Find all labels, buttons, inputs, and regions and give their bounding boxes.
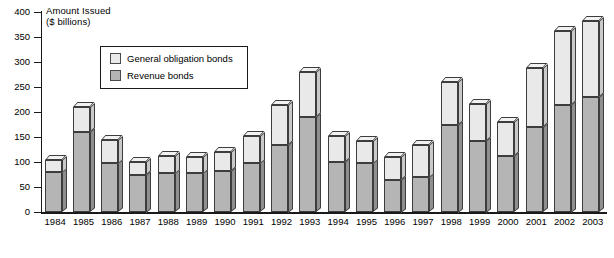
y-axis-tick-label: 350 <box>0 31 30 42</box>
bar-side-revenue <box>118 159 123 212</box>
bar-1984 <box>45 160 62 213</box>
bar-1992 <box>271 105 288 213</box>
bar-side-revenue <box>260 159 265 212</box>
bar-side-revenue <box>288 141 293 212</box>
bar-segment-revenue-bonds <box>186 173 203 212</box>
legend-label: Revenue bonds <box>127 70 194 81</box>
y-axis-tick <box>34 62 41 63</box>
x-axis-line <box>41 212 607 214</box>
bar-side-revenue <box>231 167 236 212</box>
bar-side-general-obligation <box>373 137 378 163</box>
bar-segment-revenue-bonds <box>45 172 62 212</box>
bar-1997 <box>412 145 429 213</box>
y-axis-tick-label: 100 <box>0 156 30 167</box>
bar-segment-revenue-bonds <box>158 173 175 212</box>
bar-segment-revenue-bonds <box>214 171 231 212</box>
bar-side-general-obligation <box>90 103 95 132</box>
bar-segment-general-obligation-bonds <box>271 105 288 145</box>
bar-segment-general-obligation-bonds <box>299 72 316 117</box>
bar-side-general-obligation <box>316 68 321 117</box>
bar-1996 <box>384 157 401 212</box>
bar-side-general-obligation <box>401 153 406 179</box>
bar-side-revenue <box>90 128 95 212</box>
bar-1987 <box>129 162 146 212</box>
bar-side-general-obligation <box>345 132 350 162</box>
bar-segment-revenue-bonds <box>243 163 260 212</box>
bar-side-general-obligation <box>543 64 548 127</box>
y-axis-tick <box>34 87 41 88</box>
y-axis-tick <box>34 137 41 138</box>
bar-segment-general-obligation-bonds <box>101 140 118 164</box>
bar-side-revenue <box>486 137 491 212</box>
bar-1993 <box>299 72 316 212</box>
bar-2003 <box>582 21 599 212</box>
bar-segment-general-obligation-bonds <box>554 31 571 105</box>
bar-side-revenue <box>373 159 378 212</box>
bar-segment-general-obligation-bonds <box>582 21 599 97</box>
bar-side-revenue <box>599 93 604 212</box>
bar-segment-general-obligation-bonds <box>441 82 458 125</box>
x-axis-label-2003: 2003 <box>575 216 611 227</box>
bar-segment-general-obligation-bonds <box>384 157 401 180</box>
bar-1985 <box>73 107 90 212</box>
bar-segment-revenue-bonds <box>554 105 571 213</box>
bar-segment-general-obligation-bonds <box>158 156 175 174</box>
y-axis-tick <box>34 112 41 113</box>
bar-chart: Amount Issued ($ billions) 0501001502002… <box>0 0 614 258</box>
bar-segment-revenue-bonds <box>582 97 599 212</box>
bar-side-revenue <box>429 173 434 212</box>
bar-1989 <box>186 157 203 213</box>
legend-swatch-icon <box>110 53 121 64</box>
bar-segment-general-obligation-bonds <box>45 160 62 173</box>
y-axis-tick-label: 200 <box>0 106 30 117</box>
bar-1998 <box>441 82 458 212</box>
bar-segment-revenue-bonds <box>328 162 345 212</box>
bar-1991 <box>243 136 260 213</box>
bar-side-revenue <box>571 101 576 212</box>
y-axis-tick-label: 150 <box>0 131 30 142</box>
bar-segment-general-obligation-bonds <box>214 152 231 171</box>
bar-side-general-obligation <box>260 132 265 163</box>
bar-side-general-obligation <box>118 136 123 163</box>
legend-item-general-obligation-bonds: General obligation bonds <box>110 53 233 64</box>
bar-side-revenue <box>345 158 350 212</box>
legend-item-revenue-bonds: Revenue bonds <box>110 70 194 81</box>
bar-side-revenue <box>543 123 548 212</box>
bar-side-general-obligation <box>486 100 491 141</box>
bar-segment-revenue-bonds <box>412 177 429 212</box>
bar-1986 <box>101 140 118 213</box>
bar-side-revenue <box>316 113 321 212</box>
bar-segment-revenue-bonds <box>384 180 401 213</box>
bar-1995 <box>356 141 373 213</box>
bar-2001 <box>526 68 543 212</box>
bar-segment-revenue-bonds <box>101 163 118 212</box>
bar-1994 <box>328 136 345 212</box>
bar-segment-general-obligation-bonds <box>526 68 543 127</box>
bar-side-revenue <box>146 171 151 212</box>
bar-segment-general-obligation-bonds <box>412 145 429 178</box>
bar-side-general-obligation <box>571 27 576 104</box>
bar-1988 <box>158 156 175 213</box>
plot-area <box>41 12 607 212</box>
bar-segment-revenue-bonds <box>497 156 514 212</box>
y-axis-tick <box>34 37 41 38</box>
bar-segment-general-obligation-bonds <box>129 162 146 175</box>
bar-segment-revenue-bonds <box>73 132 90 212</box>
bar-side-revenue <box>175 169 180 212</box>
bar-2002 <box>554 31 571 212</box>
bar-segment-general-obligation-bonds <box>469 104 486 141</box>
y-axis-tick <box>34 212 41 213</box>
bar-side-revenue <box>401 176 406 212</box>
bar-segment-general-obligation-bonds <box>328 136 345 162</box>
bar-segment-revenue-bonds <box>129 175 146 213</box>
bar-segment-revenue-bonds <box>526 127 543 212</box>
bar-segment-revenue-bonds <box>469 141 486 213</box>
bar-side-revenue <box>203 169 208 212</box>
bar-1999 <box>469 104 486 213</box>
y-axis-tick-label: 0 <box>0 206 30 217</box>
bar-segment-general-obligation-bonds <box>73 107 90 132</box>
bar-segment-revenue-bonds <box>356 163 373 212</box>
y-axis-tick <box>34 187 41 188</box>
bar-side-general-obligation <box>429 141 434 177</box>
bar-2000 <box>497 122 514 212</box>
